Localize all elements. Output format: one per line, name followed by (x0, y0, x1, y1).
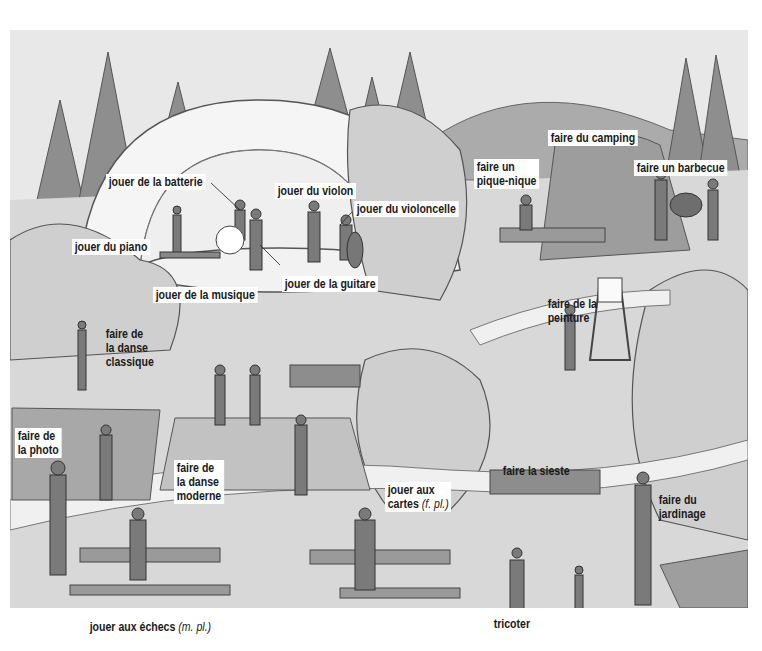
park-illustration (10, 30, 748, 608)
label-line: moderne (177, 489, 222, 503)
label-jouer-du-piano: jouer du piano (72, 239, 150, 255)
label-faire-de-la-photo: faire de la photo (15, 428, 61, 458)
label-faire-de-la-danse-classique: faire de la danse classique (103, 326, 156, 370)
label-jouer-de-la-musique: jouer de la musique (153, 287, 257, 303)
label-line: pique-nique (477, 174, 537, 188)
gender-number-gloss: (m. pl.) (178, 620, 211, 634)
label-line: classique (106, 355, 154, 369)
scene-artwork (10, 30, 748, 608)
label-line: jardinage (659, 507, 706, 521)
label-jouer-aux-cartes: jouer aux cartes (f. pl.) (385, 482, 451, 512)
label-faire-du-jardinage: faire du jardinage (656, 492, 708, 522)
label-jouer-aux-echecs: jouer aux échecs (m. pl.) (87, 619, 214, 635)
label-line: la danse (177, 475, 222, 489)
cello (347, 232, 363, 268)
label-jouer-de-la-batterie: jouer de la batterie (106, 174, 205, 190)
label-faire-de-la-peinture: faire de la peinture (545, 296, 600, 326)
label-line: la photo (18, 443, 59, 457)
canvas (598, 278, 622, 302)
label-line: faire de (177, 461, 222, 475)
label-faire-la-sieste: faire la sieste (500, 463, 572, 479)
label-jouer-de-la-guitare: jouer de la guitare (282, 276, 378, 292)
barbecue-grill (670, 193, 702, 217)
piano (160, 252, 220, 258)
label-faire-de-la-danse-moderne: faire de la danse moderne (174, 460, 224, 504)
label-faire-du-camping: faire du camping (548, 130, 638, 146)
label-text: cartes (388, 497, 419, 511)
label-line: peinture (548, 311, 597, 325)
label-tricoter: tricoter (491, 616, 533, 632)
label-jouer-du-violon: jouer du violon (275, 183, 356, 199)
label-line: faire un (477, 160, 537, 174)
label-jouer-du-violoncelle: jouer du violoncelle (354, 201, 458, 217)
label-line: faire de (106, 327, 154, 341)
label-text: jouer aux échecs (90, 620, 176, 634)
bass-drum (216, 226, 244, 254)
label-line: faire du (659, 493, 706, 507)
label-faire-un-pique-nique: faire un pique-nique (474, 159, 539, 189)
label-faire-un-barbecue: faire un barbecue (634, 160, 727, 176)
label-line: la danse (106, 341, 154, 355)
gender-number-gloss: (f. pl.) (422, 497, 449, 511)
label-line: faire de (18, 429, 59, 443)
label-line: cartes (f. pl.) (388, 497, 449, 511)
label-line: faire de la (548, 297, 597, 311)
label-line: jouer aux (388, 483, 449, 497)
